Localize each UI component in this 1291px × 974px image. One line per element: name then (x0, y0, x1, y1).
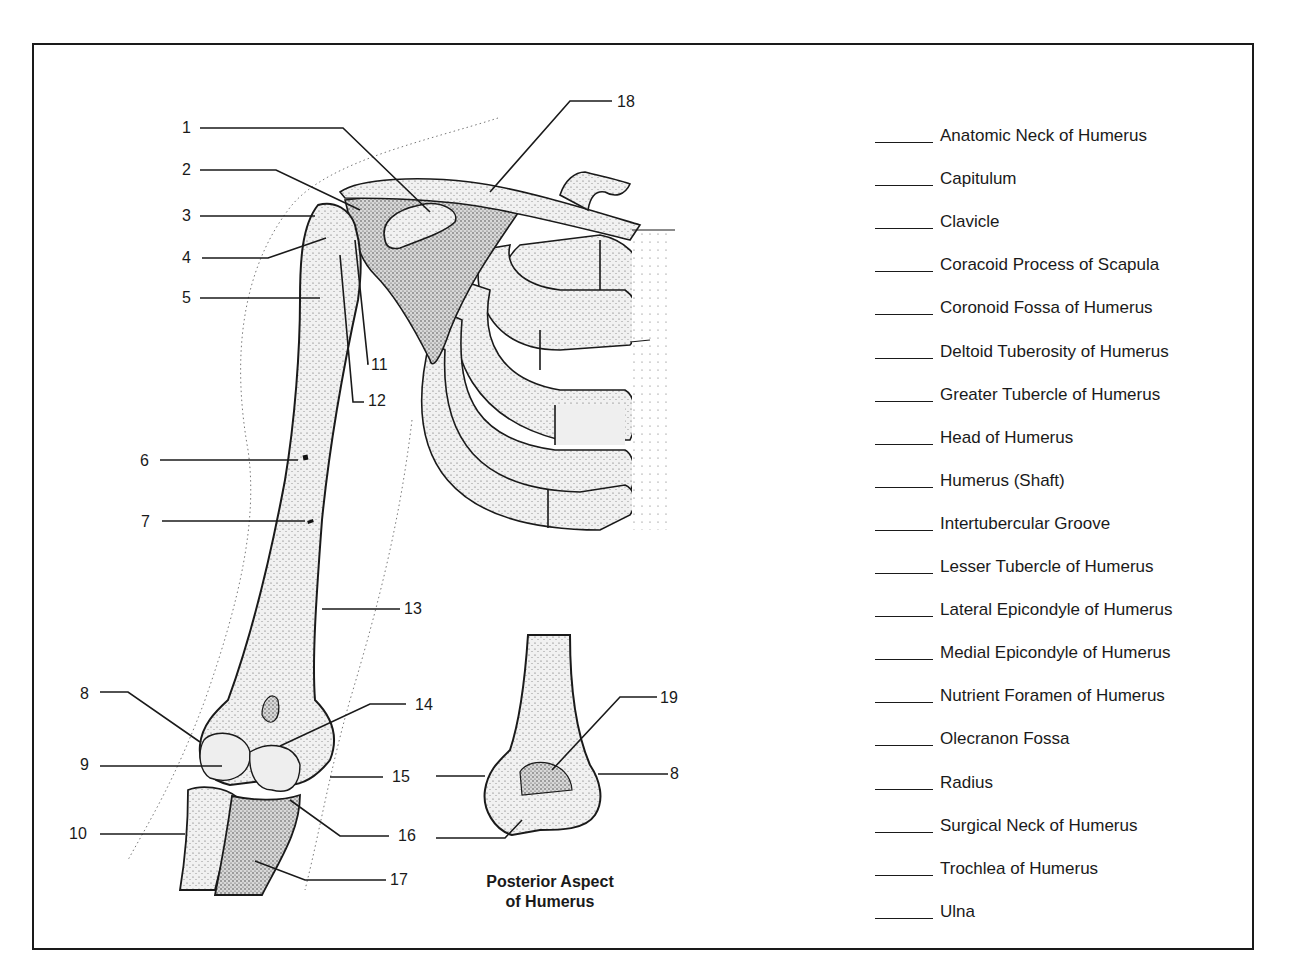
term-item: Nutrient Foramen of Humerus (875, 664, 1172, 707)
term-label: Radius (940, 772, 993, 794)
term-label: Surgical Neck of Humerus (940, 815, 1137, 837)
callout-9: 9 (80, 757, 89, 773)
callout-14: 14 (415, 697, 433, 713)
humerus (200, 204, 361, 785)
answer-blank[interactable] (875, 659, 933, 660)
term-item: Deltoid Tuberosity of Humerus (875, 319, 1172, 362)
term-label: Nutrient Foramen of Humerus (940, 685, 1165, 707)
callout-7: 7 (141, 514, 150, 530)
callout-19: 19 (660, 690, 678, 706)
answer-blank[interactable] (875, 745, 933, 746)
term-item: Medial Epicondyle of Humerus (875, 621, 1172, 664)
answer-blank[interactable] (875, 444, 933, 445)
answer-blank[interactable] (875, 875, 933, 876)
term-item: Clavicle (875, 190, 1172, 233)
term-item: Greater Tubercle of Humerus (875, 363, 1172, 406)
term-label: Olecranon Fossa (940, 728, 1069, 750)
term-label: Ulna (940, 901, 975, 923)
answer-blank[interactable] (875, 314, 933, 315)
term-label: Coracoid Process of Scapula (940, 254, 1159, 276)
caption-line-1: Posterior Aspect (450, 872, 650, 892)
term-item: Anatomic Neck of Humerus (875, 104, 1172, 147)
term-label: Intertubercular Groove (940, 513, 1110, 535)
term-label: Lesser Tubercle of Humerus (940, 556, 1154, 578)
callout-5: 5 (182, 290, 191, 306)
term-label: Coronoid Fossa of Humerus (940, 297, 1153, 319)
term-label: Trochlea of Humerus (940, 858, 1098, 880)
answer-blank[interactable] (875, 832, 933, 833)
answer-blank[interactable] (875, 789, 933, 790)
callout-6: 6 (140, 453, 149, 469)
term-item: Capitulum (875, 147, 1172, 190)
term-item: Head of Humerus (875, 406, 1172, 449)
answer-blank[interactable] (875, 573, 933, 574)
callout-10: 10 (69, 826, 87, 842)
answer-blank[interactable] (875, 185, 933, 186)
answer-blank[interactable] (875, 271, 933, 272)
term-label: Clavicle (940, 211, 1000, 233)
callout-17: 17 (390, 872, 408, 888)
callout-18: 18 (617, 94, 635, 110)
callout-8-posterior: 8 (670, 766, 679, 782)
term-item: Surgical Neck of Humerus (875, 794, 1172, 837)
callout-8: 8 (80, 686, 89, 702)
answer-blank[interactable] (875, 487, 933, 488)
term-item: Olecranon Fossa (875, 707, 1172, 750)
answer-blank[interactable] (875, 401, 933, 402)
callout-16: 16 (398, 828, 416, 844)
terms-list: Anatomic Neck of Humerus Capitulum Clavi… (875, 104, 1172, 923)
callout-13: 13 (404, 601, 422, 617)
term-label: Deltoid Tuberosity of Humerus (940, 341, 1169, 363)
sternum-area (632, 230, 672, 530)
term-item: Coronoid Fossa of Humerus (875, 276, 1172, 319)
callout-11: 11 (371, 357, 388, 373)
callout-4: 4 (182, 250, 191, 266)
caption-line-2: of Humerus (450, 892, 650, 912)
answer-blank[interactable] (875, 530, 933, 531)
term-item: Trochlea of Humerus (875, 837, 1172, 880)
term-item: Lesser Tubercle of Humerus (875, 535, 1172, 578)
answer-blank[interactable] (875, 616, 933, 617)
callout-1: 1 (182, 120, 191, 136)
answer-blank[interactable] (875, 918, 933, 919)
term-label: Lateral Epicondyle of Humerus (940, 599, 1172, 621)
callout-12: 12 (368, 393, 386, 409)
posterior-humerus (485, 635, 601, 835)
trochlea (250, 746, 300, 792)
term-label: Head of Humerus (940, 427, 1073, 449)
term-item: Lateral Epicondyle of Humerus (875, 578, 1172, 621)
callout-3: 3 (182, 208, 191, 224)
callout-2: 2 (182, 162, 191, 178)
term-item: Coracoid Process of Scapula (875, 233, 1172, 276)
answer-blank[interactable] (875, 358, 933, 359)
term-label: Humerus (Shaft) (940, 470, 1065, 492)
posterior-caption: Posterior Aspect of Humerus (450, 872, 650, 912)
answer-blank[interactable] (875, 702, 933, 703)
term-label: Capitulum (940, 168, 1017, 190)
answer-blank[interactable] (875, 228, 933, 229)
term-item: Ulna (875, 880, 1172, 923)
term-label: Greater Tubercle of Humerus (940, 384, 1160, 406)
answer-blank[interactable] (875, 142, 933, 143)
term-item: Radius (875, 750, 1172, 793)
term-label: Medial Epicondyle of Humerus (940, 642, 1171, 664)
term-item: Intertubercular Groove (875, 492, 1172, 535)
capitulum (200, 733, 250, 780)
term-label: Anatomic Neck of Humerus (940, 125, 1147, 147)
callout-15: 15 (392, 769, 410, 785)
term-item: Humerus (Shaft) (875, 449, 1172, 492)
